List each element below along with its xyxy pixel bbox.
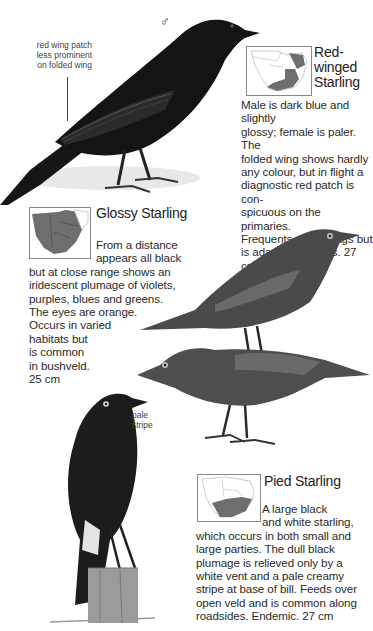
text-line: A large black [196, 502, 373, 515]
male-symbol: ♂ [160, 14, 170, 29]
red-winged-starling-illustration [0, 0, 265, 205]
text-line: glossy; female is paler. The [241, 125, 373, 152]
note-line: pale [132, 410, 153, 420]
text-line: stripe at base of bill. Feeds over [196, 582, 373, 595]
title-line: winged [314, 60, 360, 75]
southern-africa-range-map-east-icon [246, 46, 312, 96]
text-line: which occurs in both small and [196, 529, 373, 542]
pale-stripe-note: pale stripe [132, 410, 153, 430]
text-line: plumage is relieved only by a [196, 556, 373, 569]
red-winged-starling-title: Red- winged Starling [314, 45, 360, 90]
title-line: Starling [314, 75, 360, 90]
note-line: less prominent [22, 50, 92, 60]
pied-starling-description: A large black and white starling, which … [196, 502, 373, 623]
text-line: any colour, but in flight a [241, 165, 373, 178]
text-line: and white starling, [196, 515, 373, 528]
text-line: white vent and a pale creamy [196, 569, 373, 582]
pied-starling-title: Pied Starling [264, 474, 341, 489]
red-wing-patch-note: red wing patch less prominent on folded … [22, 40, 92, 70]
glossy-starling-illustration [135, 210, 373, 460]
text-line: large parties. The dull black [196, 542, 373, 555]
text-line: open veld and is common along [196, 596, 373, 609]
title-line: Red- [314, 45, 360, 60]
text-line: Male is dark blue and slightly [241, 98, 373, 125]
note-line: red wing patch [22, 40, 92, 50]
note-line: on folded wing [22, 60, 92, 70]
note-line: stripe [132, 420, 153, 430]
text-line: folded wing shows hardly [241, 152, 373, 165]
text-line: diagnostic red patch is con- [241, 178, 373, 205]
text-line: roadsides. Endemic. 27 cm [196, 609, 373, 622]
pointer-line [67, 77, 68, 121]
